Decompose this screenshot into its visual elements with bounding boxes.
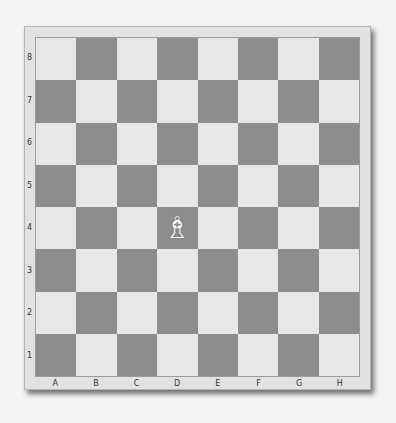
square-h8[interactable] [319, 38, 359, 80]
square-e8[interactable] [198, 38, 238, 80]
square-b8[interactable] [76, 38, 116, 80]
file-label: B [76, 379, 117, 389]
square-e1[interactable] [198, 334, 238, 376]
file-label: D [157, 379, 198, 389]
square-h3[interactable] [319, 249, 359, 291]
square-a5[interactable] [36, 165, 76, 207]
rank-label: 3 [24, 266, 35, 275]
square-d3[interactable] [157, 249, 197, 291]
square-e2[interactable] [198, 292, 238, 334]
white-bishop-icon[interactable]: ♗ [164, 213, 191, 243]
square-d6[interactable] [157, 123, 197, 165]
rank-label: 7 [24, 96, 35, 105]
square-e6[interactable] [198, 123, 238, 165]
square-h7[interactable] [319, 80, 359, 122]
square-b4[interactable] [76, 207, 116, 249]
square-c5[interactable] [117, 165, 157, 207]
square-g6[interactable] [278, 123, 318, 165]
square-g3[interactable] [278, 249, 318, 291]
square-c2[interactable] [117, 292, 157, 334]
square-f1[interactable] [238, 334, 278, 376]
square-c6[interactable] [117, 123, 157, 165]
square-g4[interactable] [278, 207, 318, 249]
square-f3[interactable] [238, 249, 278, 291]
square-b6[interactable] [76, 123, 116, 165]
square-c4[interactable] [117, 207, 157, 249]
square-b5[interactable] [76, 165, 116, 207]
square-c1[interactable] [117, 334, 157, 376]
square-h2[interactable] [319, 292, 359, 334]
square-g2[interactable] [278, 292, 318, 334]
square-d2[interactable] [157, 292, 197, 334]
square-e3[interactable] [198, 249, 238, 291]
square-d8[interactable] [157, 38, 197, 80]
square-a8[interactable] [36, 38, 76, 80]
file-label: F [238, 379, 279, 389]
square-f4[interactable] [238, 207, 278, 249]
square-e4[interactable] [198, 207, 238, 249]
square-g1[interactable] [278, 334, 318, 376]
square-a6[interactable] [36, 123, 76, 165]
rank-label: 8 [24, 53, 35, 62]
file-label: G [279, 379, 320, 389]
square-f6[interactable] [238, 123, 278, 165]
rank-label: 6 [24, 138, 35, 147]
square-h5[interactable] [319, 165, 359, 207]
square-e5[interactable] [198, 165, 238, 207]
square-h4[interactable] [319, 207, 359, 249]
rank-label: 2 [24, 308, 35, 317]
square-a1[interactable] [36, 334, 76, 376]
square-g5[interactable] [278, 165, 318, 207]
rank-label: 4 [24, 223, 35, 232]
square-h6[interactable] [319, 123, 359, 165]
square-g8[interactable] [278, 38, 318, 80]
file-label: C [116, 379, 157, 389]
square-c3[interactable] [117, 249, 157, 291]
file-label: A [35, 379, 76, 389]
square-c7[interactable] [117, 80, 157, 122]
square-d5[interactable] [157, 165, 197, 207]
square-c8[interactable] [117, 38, 157, 80]
square-b2[interactable] [76, 292, 116, 334]
square-f2[interactable] [238, 292, 278, 334]
square-f5[interactable] [238, 165, 278, 207]
square-d7[interactable] [157, 80, 197, 122]
square-d4[interactable]: ♗ [157, 207, 197, 249]
rank-label: 1 [24, 351, 35, 360]
square-b7[interactable] [76, 80, 116, 122]
rank-label: 5 [24, 181, 35, 190]
square-a7[interactable] [36, 80, 76, 122]
chess-board: ♗ [35, 37, 360, 377]
file-label: H [319, 379, 360, 389]
square-a2[interactable] [36, 292, 76, 334]
square-f8[interactable] [238, 38, 278, 80]
square-g7[interactable] [278, 80, 318, 122]
file-label: E [198, 379, 239, 389]
square-b1[interactable] [76, 334, 116, 376]
square-a4[interactable] [36, 207, 76, 249]
square-e7[interactable] [198, 80, 238, 122]
square-h1[interactable] [319, 334, 359, 376]
square-b3[interactable] [76, 249, 116, 291]
square-a3[interactable] [36, 249, 76, 291]
square-f7[interactable] [238, 80, 278, 122]
square-d1[interactable] [157, 334, 197, 376]
